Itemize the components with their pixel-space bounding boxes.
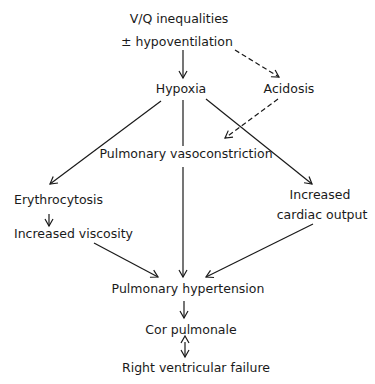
node-cor-pulmonale: Cor pulmonale (145, 322, 236, 337)
node-erythrocytosis: Erythrocytosis (14, 192, 103, 207)
node-pulmonary-vasoconstriction: Pulmonary vasoconstriction (99, 146, 272, 161)
node-cardiac-output: cardiac output (277, 207, 368, 222)
edge-acidosis-vasoconstriction (225, 99, 278, 138)
node-hypoxia: Hypoxia (156, 81, 207, 96)
node-acidosis: Acidosis (264, 81, 315, 96)
edge-hypovent-acidosis (235, 50, 279, 77)
diagram-canvas: V/Q inequalities ± hypoventilation Hypox… (0, 0, 375, 384)
node-increased-viscosity: Increased viscosity (14, 226, 133, 241)
node-right-ventricular-failure: Right ventricular failure (122, 360, 270, 375)
edge-hypoxia-erythrocytosis (50, 101, 161, 184)
edge-viscosity-pulm-htn (94, 243, 158, 277)
node-pulmonary-hypertension: Pulmonary hypertension (112, 281, 265, 296)
node-vq-inequalities: V/Q inequalities (130, 11, 229, 26)
edge-cardiac-output-pulm-htn (206, 224, 313, 277)
node-increased: Increased (290, 187, 351, 202)
edge-hypoxia-cardiac-output (206, 99, 312, 184)
node-hypoventilation: ± hypoventilation (121, 34, 233, 49)
